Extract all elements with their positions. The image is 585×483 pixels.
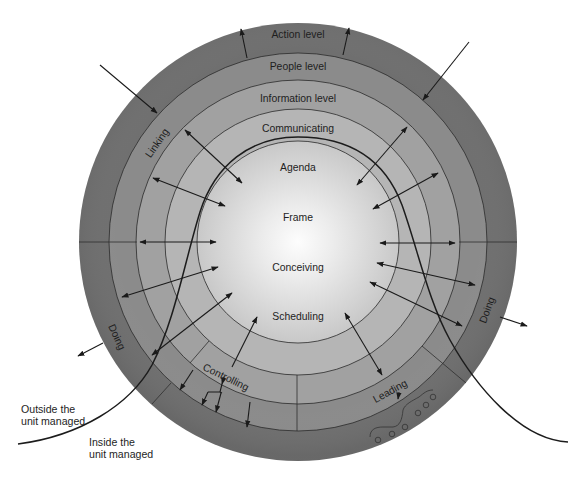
label-outside-line1: Outside the: [21, 403, 75, 415]
label-inside-line2: unit managed: [89, 448, 153, 460]
label-outside-line2: unit managed: [21, 415, 85, 427]
label-scheduling: Scheduling: [272, 311, 324, 322]
label-frame: Frame: [283, 212, 313, 223]
label-communicating: Communicating: [262, 123, 334, 134]
label-action-level: Action level: [271, 29, 324, 40]
label-people-level: People level: [270, 61, 327, 72]
arrow-doing-out-left: [78, 343, 103, 356]
arrow-doing-out-right: [500, 317, 527, 326]
label-agenda: Agenda: [280, 162, 316, 173]
label-information-level: Information level: [260, 93, 336, 104]
label-conceiving: Conceiving: [272, 262, 324, 273]
managing-model-diagram: Action level People level Information le…: [0, 0, 585, 483]
label-inside-line1: Inside the: [89, 436, 135, 448]
